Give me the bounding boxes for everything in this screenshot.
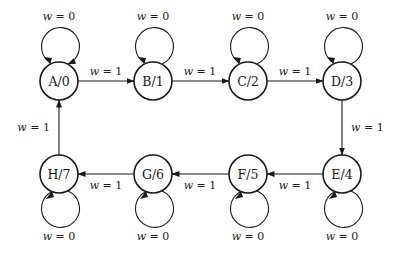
edge-label-c-d: w = 1 (279, 65, 312, 78)
state-diagram: A/0 B/1 C/2 D/3 E/4 F/5 G/6 H/7 w = 0 w … (0, 0, 401, 253)
state-h-label: H/7 (47, 167, 70, 182)
state-f-label: F/5 (238, 167, 259, 182)
state-d-label: D/3 (331, 74, 353, 89)
loop-arrowheads-bottom (46, 191, 337, 199)
state-a-label: A/0 (47, 74, 69, 89)
state-c: C/2 (229, 62, 267, 100)
loop-label-a: w = 0 (43, 10, 76, 23)
loop-label-f: w = 0 (232, 230, 265, 243)
edge-label-g-h: w = 1 (90, 179, 123, 192)
state-e-label: E/4 (331, 167, 352, 182)
edge-label-a-b: w = 1 (90, 65, 123, 78)
edge-label-h-a: w = 1 (17, 121, 50, 134)
state-b: B/1 (134, 62, 172, 100)
edge-label-f-g: w = 1 (184, 179, 217, 192)
self-loop-e (324, 191, 362, 227)
loop-label-d: w = 0 (326, 10, 359, 23)
edge-label-d-e: w = 1 (351, 121, 384, 134)
loop-label-c: w = 0 (232, 10, 265, 23)
loop-label-b: w = 0 (137, 10, 170, 23)
state-d: D/3 (323, 62, 361, 100)
self-loop-g (135, 191, 173, 227)
self-loop-f (230, 191, 268, 227)
state-e: E/4 (323, 155, 361, 193)
loop-arrowheads-top (44, 57, 335, 64)
state-b-label: B/1 (142, 74, 163, 89)
edge-label-e-f: w = 1 (279, 179, 312, 192)
loop-label-e: w = 0 (326, 230, 359, 243)
loop-label-h: w = 0 (43, 230, 76, 243)
state-h: H/7 (40, 155, 78, 193)
loop-label-g: w = 0 (137, 230, 170, 243)
state-c-label: C/2 (237, 74, 259, 89)
state-f: F/5 (229, 155, 267, 193)
self-loop-h (41, 191, 79, 227)
edge-label-b-c: w = 1 (184, 65, 217, 78)
state-a: A/0 (40, 62, 78, 100)
state-g-label: G/6 (142, 167, 164, 182)
state-g: G/6 (134, 155, 172, 193)
